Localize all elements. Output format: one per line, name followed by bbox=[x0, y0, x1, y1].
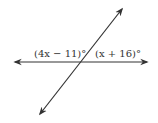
right-angle-label: (x + 16)° bbox=[95, 48, 141, 59]
left-angle-label: (4x − 11)° bbox=[34, 48, 86, 59]
angle-diagram: (4x − 11)° (x + 16)° bbox=[0, 0, 158, 123]
